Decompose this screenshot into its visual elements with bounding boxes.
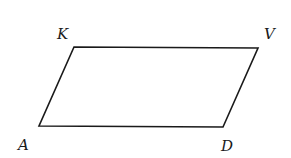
parallelogram-diagram: K V A D — [0, 0, 291, 158]
vertex-label-v: V — [264, 25, 277, 43]
vertex-label-a: A — [16, 136, 29, 154]
vertex-label-d: D — [220, 137, 233, 155]
parallelogram-kvda — [39, 47, 258, 127]
vertex-label-k: K — [56, 25, 69, 43]
